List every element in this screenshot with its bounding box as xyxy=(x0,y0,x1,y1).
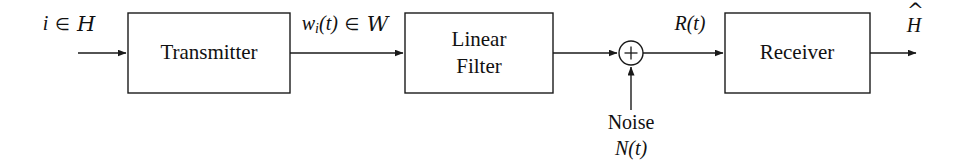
receiver-block-label: Receiver xyxy=(760,40,835,64)
input-signal-label: i∈H xyxy=(43,12,96,36)
transmitted-signal-label: wi(t)∈W xyxy=(302,12,391,37)
noise-argument: (t) xyxy=(628,137,647,160)
linear-filter-block-label-line1: Linear xyxy=(452,27,507,51)
output-hat-accent: ^ xyxy=(907,0,924,22)
input-set-symbol: H xyxy=(76,12,96,36)
noise-signal-label: N(t) xyxy=(614,137,648,160)
transmitted-argument: (t) xyxy=(319,12,338,35)
received-argument: (t) xyxy=(687,12,706,35)
transmitted-set-symbol: W xyxy=(367,12,391,36)
block-diagram-canvas: Transmitter Linear Filter Receiver i∈H w… xyxy=(0,0,959,166)
transmitted-variable: w xyxy=(302,12,316,34)
noise-word-label: Noise xyxy=(608,111,655,133)
transmitted-operator: ∈ xyxy=(345,14,360,34)
received-signal-label: R(t) xyxy=(673,12,705,35)
linear-filter-block-label-line2: Filter xyxy=(456,54,502,78)
input-variable: i xyxy=(43,12,49,34)
input-operator: ∈ xyxy=(55,14,70,34)
transmitter-block-label: Transmitter xyxy=(160,40,257,64)
block-diagram: Transmitter Linear Filter Receiver i∈H w… xyxy=(0,0,959,166)
received-variable: R xyxy=(673,12,686,34)
